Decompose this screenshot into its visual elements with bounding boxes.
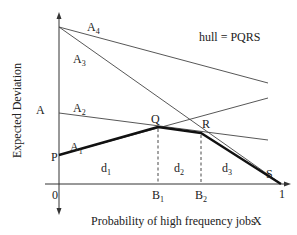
point-p: P <box>51 151 58 163</box>
y-axis-arrow-icon <box>57 12 62 19</box>
region-d2: d2 <box>174 162 184 177</box>
label-a4: A4 <box>87 21 100 36</box>
region-d3: d3 <box>222 162 232 177</box>
origin-label: 0 <box>52 189 58 201</box>
region-d1: d1 <box>101 162 111 177</box>
label-a1: A1 <box>70 141 83 156</box>
hull-pqrs <box>59 127 281 184</box>
label-y-mark-a: A <box>36 104 45 116</box>
x-axis-var: X <box>253 215 262 227</box>
x-axis-label: Probability of high frequency jobs <box>91 215 256 227</box>
point-s: S <box>266 168 273 180</box>
point-r: R <box>202 118 210 130</box>
line-a3 <box>59 27 280 183</box>
point-q: Q <box>151 113 160 125</box>
tick-b2: B2 <box>195 189 207 204</box>
y-axis-label: Expected Deviation <box>10 56 25 166</box>
label-a3: A3 <box>73 53 86 68</box>
hull-note: hull = PQRS <box>199 31 260 43</box>
x-axis-arrow-icon <box>284 182 291 187</box>
label-a2: A2 <box>73 102 86 117</box>
tick-b1: B1 <box>152 189 164 204</box>
y-axis-down-arrow-icon <box>57 208 62 215</box>
x-end-label: 1 <box>279 188 285 200</box>
